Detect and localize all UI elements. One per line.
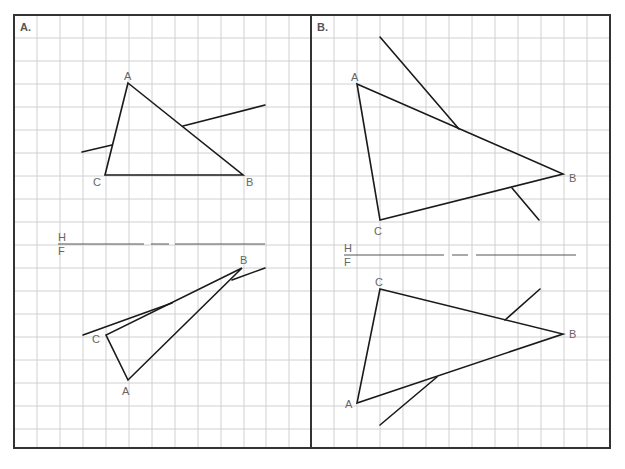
triangle-abc bbox=[357, 289, 563, 403]
vertex-label-a: A bbox=[351, 71, 359, 83]
cutting-line-segment bbox=[380, 37, 459, 129]
panel-b: B. A B C H F C B A bbox=[317, 21, 576, 425]
panel-b-top-view: A B C bbox=[351, 37, 576, 237]
panel-label: B. bbox=[317, 21, 328, 33]
vertex-label-a: A bbox=[345, 398, 353, 410]
vertex-label-b: B bbox=[246, 176, 253, 188]
vertex-label-b: B bbox=[240, 254, 247, 266]
vertex-label-c: C bbox=[375, 276, 383, 288]
vertex-label-a: A bbox=[124, 70, 132, 82]
fold-label-h: H bbox=[344, 242, 352, 254]
fold-label-f: F bbox=[58, 245, 65, 257]
panel-a-front-view: B C A bbox=[83, 254, 265, 397]
cutting-line-segment bbox=[83, 303, 172, 335]
panel-a: A. A B C H F B C A bbox=[20, 21, 265, 397]
panel-label: A. bbox=[20, 21, 31, 33]
triangle-abc bbox=[357, 84, 563, 220]
cutting-line-segment bbox=[380, 377, 437, 425]
vertex-label-b: B bbox=[569, 328, 576, 340]
fold-label-f: F bbox=[344, 256, 351, 268]
triangle-abc bbox=[106, 268, 242, 380]
cutting-line-segment bbox=[82, 145, 112, 152]
vertex-label-c: C bbox=[92, 333, 100, 345]
vertex-label-c: C bbox=[374, 225, 382, 237]
worksheet-canvas: A. A B C H F B C A B. bbox=[0, 0, 625, 469]
vertex-label-b: B bbox=[569, 172, 576, 184]
fold-label-h: H bbox=[58, 231, 66, 243]
cutting-line-segment bbox=[505, 289, 540, 320]
triangle-abc bbox=[105, 83, 243, 175]
cutting-line-segment bbox=[512, 188, 539, 220]
cutting-line-segment bbox=[183, 105, 265, 126]
panel-a-top-view: A B C bbox=[82, 70, 265, 188]
vertex-label-a: A bbox=[122, 385, 130, 397]
vertex-label-c: C bbox=[93, 176, 101, 188]
panel-a-fold-line: H F bbox=[58, 231, 265, 257]
